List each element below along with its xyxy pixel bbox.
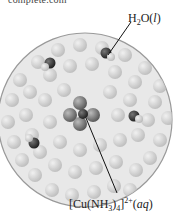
- water-label: H2O(l): [128, 11, 161, 27]
- complex-label: [Cu(NH3)4]2+(aq): [69, 196, 153, 213]
- solution-diagram: [0, 0, 181, 221]
- solution-circle: [0, 33, 175, 207]
